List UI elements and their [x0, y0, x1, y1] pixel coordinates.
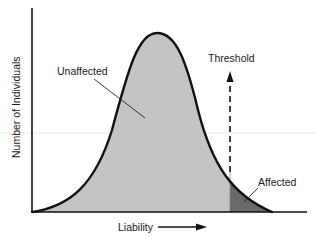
unaffected-label: Unaffected	[57, 65, 108, 77]
threshold-arrow-icon	[227, 71, 234, 82]
affected-label: Affected	[258, 176, 296, 188]
threshold-label: Threshold	[208, 52, 255, 64]
liability-threshold-diagram: Threshold Unaffected Affected Number of …	[0, 0, 315, 239]
affected-region	[230, 100, 290, 212]
y-axis-label: Number of Individuals	[10, 56, 22, 158]
liability-arrow-icon	[196, 224, 207, 231]
x-axis-label: Liability	[118, 221, 154, 233]
